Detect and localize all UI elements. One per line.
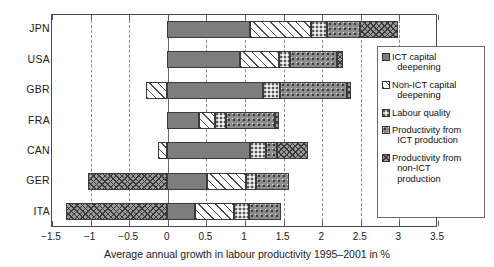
axis-tick [438,221,439,226]
bar-segment [250,142,265,159]
legend-item-prodnonict[interactable]: Productivity from non-ICT production [382,153,481,184]
bar-segment [256,173,289,190]
bar-segment [167,142,250,159]
gridline [322,15,323,226]
bar-segment [215,112,226,129]
bar-segment [158,142,167,159]
axis-tick [399,15,400,20]
legend-swatch-nonict-icon [382,81,390,89]
bar-segment [226,112,275,129]
gridline [91,15,92,226]
x-tick-label: 0.5 [185,231,225,242]
category-label-gbr: GBR [6,84,50,95]
x-tick-label: 1.5 [263,231,303,242]
legend-label: Productivity from ICT production [392,125,461,146]
legend-item-nonict[interactable]: Non-ICT capital deepening [382,80,481,101]
legend-swatch-prodnonict-icon [382,154,390,162]
x-tick-label: −1.5 [31,231,71,242]
bar-segment [167,173,207,190]
axis-tick [245,221,246,226]
bar-segment [167,82,264,99]
legend-item-prodict[interactable]: Productivity from ICT production [382,125,481,146]
axis-tick [168,221,169,226]
axis-tick [361,221,362,226]
x-tick-label: 2.5 [340,231,380,242]
bar-segment [167,51,240,68]
category-label-fra: FRA [6,115,50,126]
bar-segment [246,173,256,190]
axis-tick [438,15,439,20]
category-label-can: CAN [6,145,50,156]
x-axis-title: Average annual growth in labour producti… [0,248,494,260]
legend: ICT capital deepeningNon-ICT capital dee… [377,46,485,218]
chart-root: JPNUSAGBRFRACANGERITA −1.5−1−0.500.511.5… [0,0,494,267]
bar-segment [266,142,278,159]
category-label-ita: ITA [6,206,50,217]
bar-segment [311,21,327,38]
axis-tick [206,221,207,226]
bar-segment [360,21,399,38]
axis-tick [322,15,323,20]
axis-tick [206,15,207,20]
axis-tick [361,15,362,20]
bar-segment [88,173,167,190]
axis-tick [284,221,285,226]
axis-tick [399,221,400,226]
bar-segment [167,112,199,129]
x-tick-label: 3 [378,231,418,242]
bar-segment [275,112,279,129]
axis-tick [52,221,53,226]
axis-tick [52,15,53,20]
x-tick-label: −0.5 [108,231,148,242]
category-label-usa: USA [6,54,50,65]
bar-segment [207,173,246,190]
legend-swatch-labour-icon [382,109,390,117]
legend-item-ict[interactable]: ICT capital deepening [382,52,481,73]
legend-swatch-prodict-icon [382,126,390,134]
x-tick-label: 0 [147,231,187,242]
bar-segment [195,203,234,220]
legend-item-labour[interactable]: Labour quality [382,108,481,118]
axis-tick [168,15,169,20]
bar-segment [66,203,166,220]
legend-label: Non-ICT capital deepening [392,80,456,101]
x-tick-label: −1 [70,231,110,242]
bar-segment [279,51,291,68]
category-label-ger: GER [6,175,50,186]
axis-tick [245,15,246,20]
bar-segment [290,51,336,68]
legend-label: Productivity from non-ICT production [392,153,461,184]
gridline [129,15,130,226]
gridline [284,15,285,226]
axis-tick [91,221,92,226]
bar-segment [337,51,343,68]
bar-segment [240,51,279,68]
x-tick-label: 3.5 [417,231,457,242]
x-tick-label: 1 [224,231,264,242]
legend-swatch-ict-icon [382,53,390,61]
bar-segment [234,203,249,220]
bar-segment [280,82,347,99]
axis-tick [129,221,130,226]
axis-tick [91,15,92,20]
bar-segment [250,21,311,38]
legend-label: Labour quality [392,108,450,118]
bar-segment [327,21,359,38]
bar-segment [146,82,167,99]
bar-segment [167,203,195,220]
bar-segment [263,82,280,99]
category-label-jpn: JPN [6,23,50,34]
bar-segment [199,112,215,129]
x-tick-label: 2 [301,231,341,242]
axis-tick [322,221,323,226]
bar-segment [167,21,250,38]
axis-tick [284,15,285,20]
legend-label: ICT capital deepening [392,52,441,73]
bar-segment [249,203,281,220]
gridline [361,15,362,226]
axis-tick [129,15,130,20]
bar-segment [277,142,308,159]
bar-segment [347,82,351,99]
